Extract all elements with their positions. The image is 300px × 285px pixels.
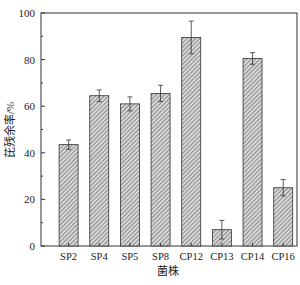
x-tick-label: SP5 — [121, 251, 138, 262]
x-tick-label: CP14 — [241, 251, 265, 262]
x-tick-label: CP12 — [180, 251, 203, 262]
x-tick-label: CP13 — [210, 251, 233, 262]
y-axis-label: 芘残余率/% — [3, 102, 16, 158]
x-tick-label: CP16 — [272, 251, 295, 262]
y-tick-label: 20 — [24, 193, 36, 205]
y-tick-label: 0 — [30, 240, 36, 252]
bars — [59, 21, 293, 246]
y-tick-label: 60 — [24, 100, 36, 112]
x-axis-label: 菌株 — [157, 264, 179, 277]
y-tick-label: 100 — [19, 7, 36, 19]
bar-cp16 — [274, 188, 293, 246]
x-tick-label: SP8 — [152, 251, 169, 262]
bar-chart: 020406080100 SP2SP4SP5SP8CP12CP13CP14CP1… — [0, 0, 300, 285]
x-tick-label: SP4 — [91, 251, 109, 262]
bar-cp12 — [182, 37, 201, 246]
x-tick-label: SP2 — [60, 251, 77, 262]
y-tick-label: 40 — [24, 147, 36, 159]
y-tick-label: 80 — [24, 54, 36, 66]
bar-sp8 — [151, 93, 170, 246]
bar-sp2 — [59, 145, 78, 246]
bar-cp14 — [243, 58, 262, 246]
bar-sp4 — [90, 96, 109, 246]
bar-sp5 — [120, 104, 139, 246]
